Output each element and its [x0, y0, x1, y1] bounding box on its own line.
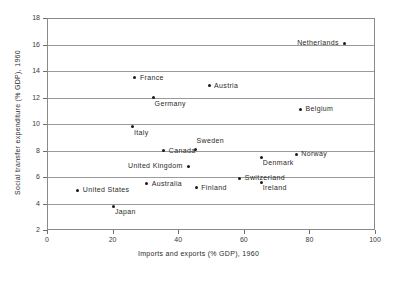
gridline: [48, 124, 374, 125]
plot-area: [47, 18, 375, 230]
data-point-label: Austria: [214, 82, 238, 90]
data-point-label: Switzerland: [245, 174, 285, 182]
x-tick-label: 0: [35, 236, 59, 244]
y-tick-mark: [43, 18, 47, 19]
x-tick-mark: [244, 230, 245, 234]
x-tick-mark: [178, 230, 179, 234]
y-tick-label: 14: [18, 67, 40, 75]
x-tick-label: 20: [101, 236, 125, 244]
data-point: [187, 165, 190, 168]
y-tick-mark: [43, 98, 47, 99]
x-tick-mark: [113, 230, 114, 234]
data-point-label: Belgium: [306, 105, 334, 113]
y-tick-label: 8: [18, 147, 40, 155]
x-axis-title: Imports and exports (% GDP), 1960: [0, 250, 397, 257]
y-tick-label: 4: [18, 200, 40, 208]
data-point-label: Canada: [169, 147, 196, 155]
y-tick-mark: [43, 151, 47, 152]
data-point-label: Ireland: [263, 184, 287, 192]
x-tick-mark: [47, 230, 48, 234]
y-tick-label: 12: [18, 94, 40, 102]
y-tick-label: 6: [18, 173, 40, 181]
data-point-label: Finland: [201, 184, 226, 192]
gridline: [48, 71, 374, 72]
x-tick-mark: [375, 230, 376, 234]
y-tick-label: 16: [18, 41, 40, 49]
gridline: [48, 98, 374, 99]
data-point-label: Australia: [152, 180, 182, 188]
data-point: [208, 84, 211, 87]
y-tick-mark: [43, 204, 47, 205]
y-tick-mark: [43, 124, 47, 125]
y-tick-mark: [43, 177, 47, 178]
data-point-label: Italy: [134, 129, 149, 137]
data-point-label: Norway: [301, 150, 327, 158]
data-point: [343, 42, 346, 45]
y-axis-title: Social transfer expenditure (% GDP), 196…: [14, 50, 21, 195]
data-point-label: France: [140, 74, 164, 82]
data-point-label: United States: [83, 186, 130, 194]
x-tick-label: 80: [297, 236, 321, 244]
y-tick-mark: [43, 71, 47, 72]
gridline: [48, 204, 374, 205]
y-tick-mark: [43, 45, 47, 46]
data-point-label: Denmark: [263, 159, 294, 167]
data-point-label: Germany: [155, 100, 186, 108]
data-point: [299, 108, 302, 111]
x-tick-label: 60: [232, 236, 256, 244]
scatter-chart: 24681012141618 020406080100 NetherlandsF…: [0, 0, 397, 285]
data-point-label: Sweden: [197, 137, 224, 145]
x-tick-label: 100: [363, 236, 387, 244]
data-point: [295, 153, 298, 156]
clipped-title-strip: [0, 0, 397, 6]
x-tick-mark: [309, 230, 310, 234]
data-point-label: United Kingdom: [128, 162, 183, 170]
y-tick-label: 10: [18, 120, 40, 128]
x-tick-label: 40: [166, 236, 190, 244]
data-point: [195, 186, 198, 189]
y-tick-label: 2: [18, 226, 40, 234]
data-point-label: Netherlands: [297, 39, 339, 47]
data-point-label: Japan: [115, 208, 136, 216]
y-tick-label: 18: [18, 14, 40, 22]
gridline: [48, 177, 374, 178]
